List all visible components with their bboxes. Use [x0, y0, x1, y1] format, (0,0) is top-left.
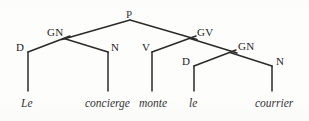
edge-gv-to-gn2: [190, 39, 237, 54]
syntax-tree-figure: P GN D N GV V GN D N Le concierge monte …: [0, 0, 309, 121]
leaf-word-concierge: concierge: [85, 97, 130, 109]
node-label-d-subject: D: [16, 42, 24, 53]
node-label-n-subject: N: [111, 42, 119, 53]
node-label-gn-object: GN: [238, 41, 254, 52]
node-label-n-object: N: [276, 56, 284, 67]
edge-p-to-gv: [130, 20, 197, 40]
leaf-word-le-subject: Le: [21, 97, 33, 109]
leaf-word-monte: monte: [139, 97, 167, 109]
node-label-gn-subject: GN: [47, 27, 63, 38]
node-label-v: V: [142, 42, 150, 53]
edge-gn1-to-n1: [64, 39, 108, 53]
edge-p-to-gn1: [62, 20, 130, 40]
node-label-d-object: D: [182, 56, 190, 67]
leaf-word-courrier: courrier: [255, 97, 293, 109]
edge-gn2-to-n2: [230, 53, 272, 67]
leaf-word-le-object: le: [189, 97, 197, 109]
node-label-gv: GV: [197, 27, 213, 38]
node-label-p: P: [126, 9, 132, 20]
